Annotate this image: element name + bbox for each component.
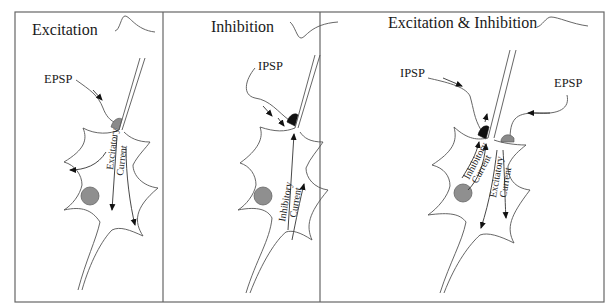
presynaptic-fiber [246, 68, 289, 120]
panel-title: Excitation & Inhibition [388, 14, 537, 31]
current-arrow-icon [70, 152, 106, 170]
panel-title: Inhibition [211, 18, 274, 35]
nucleus [454, 184, 472, 202]
panel-inhibition: Inhibition IPSP Inhibitory Current [211, 18, 338, 293]
ipsp-presynaptic-fiber [428, 78, 481, 130]
synaptic-integration-figure: Excitation EPSP Excitatory Current Inhib… [0, 0, 612, 306]
epsp-label: EPSP [44, 72, 73, 86]
current-arrow-icon [126, 148, 135, 225]
input-arrow-icon [263, 106, 272, 116]
epsp-label: EPSP [554, 76, 583, 90]
nucleus [254, 187, 272, 205]
ipsp-label: IPSP [258, 59, 283, 73]
feedback-arrow-icon [278, 118, 284, 126]
presynaptic-fiber [76, 80, 114, 122]
ipsp-label: IPSP [400, 66, 425, 80]
ipsp-waveform-icon [290, 22, 338, 38]
apical-dendrite [295, 55, 320, 128]
panel-excitation: Excitation EPSP Excitatory Current [32, 16, 158, 290]
mixed-waveform-icon [537, 17, 588, 27]
epsp-presynaptic-fiber [510, 95, 568, 140]
excitatory-synapse [501, 135, 514, 142]
apical-dendrite [119, 58, 145, 130]
panel-title: Excitation [32, 21, 98, 38]
feedback-arrow-icon [485, 114, 487, 122]
panel-excitation-inhibition: Excitation & Inhibition IPSP EPSP Inhibi… [388, 14, 588, 293]
epsp-waveform-icon [115, 16, 155, 32]
figure-frame [15, 12, 604, 302]
nucleus [81, 187, 99, 205]
